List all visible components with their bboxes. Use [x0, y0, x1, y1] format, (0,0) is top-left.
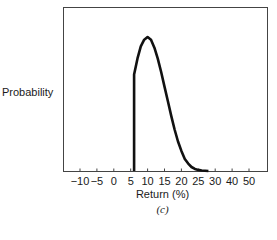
x-tick-label: 50 [243, 175, 255, 187]
x-tick-label: 25 [192, 175, 204, 187]
x-tick-label: 30 [209, 175, 221, 187]
x-tick-label: −10 [71, 175, 90, 187]
x-tick-label: 15 [158, 175, 170, 187]
x-tick-label: 40 [226, 175, 238, 187]
x-tick-label: 20 [175, 175, 187, 187]
distribution-curve [134, 37, 208, 171]
x-axis-label: Return (%) [0, 188, 277, 200]
x-tick-label: −5 [91, 175, 104, 187]
x-tick-label: 5 [128, 175, 134, 187]
panel-label: (c) [0, 203, 277, 215]
x-tick-label: 10 [141, 175, 153, 187]
x-tick-label: 0 [111, 175, 117, 187]
